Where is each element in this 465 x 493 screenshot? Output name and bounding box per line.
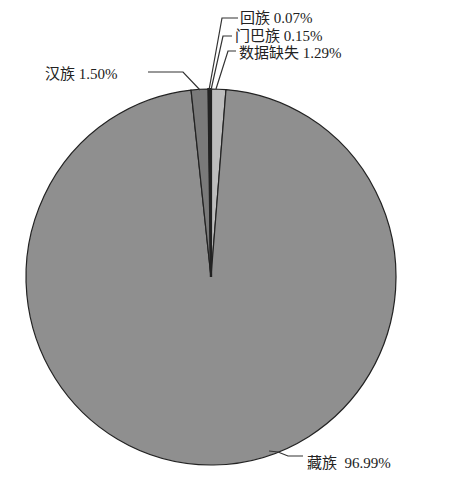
label-missing: 数据缺失 1.29% <box>239 45 342 61</box>
label-hui: 回族 0.07% <box>240 10 313 26</box>
label-zang: 藏族 96.99% <box>307 455 391 471</box>
label-han: 汉族 1.50% <box>45 66 118 82</box>
pie-chart: 回族 0.07% 门巴族 0.15% 数据缺失 1.29% 汉族 1.50% 藏… <box>0 0 465 493</box>
label-menba: 门巴族 0.15% <box>235 28 323 44</box>
leader-line-han <box>148 72 200 90</box>
pie-slices <box>26 89 396 465</box>
